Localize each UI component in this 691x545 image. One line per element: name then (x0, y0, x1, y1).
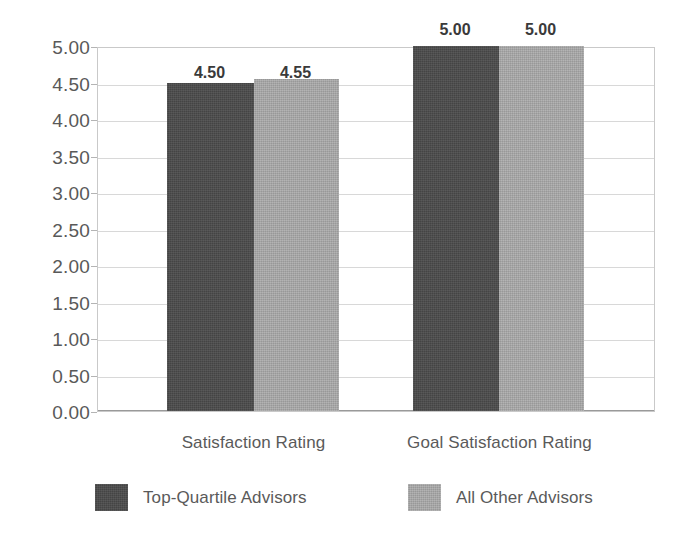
value-label-satisfaction-all-other: 4.55 (253, 65, 338, 81)
y-tick-mark (91, 412, 97, 413)
y-tick-label-4-00: 4.00 (6, 111, 90, 130)
value-label-goal-satisfaction-top-quartile: 5.00 (412, 22, 498, 38)
bar-satisfaction-top-quartile[interactable] (167, 83, 254, 412)
y-tick-label-4-50: 4.50 (6, 74, 90, 93)
y-axis: 5.00 4.50 4.00 3.50 3.00 2.50 2.00 1.50 … (0, 0, 90, 545)
bar-satisfaction-all-other[interactable] (254, 79, 339, 411)
y-tick-label-5-00: 5.00 (6, 38, 90, 57)
y-tick-label-1-00: 1.00 (6, 330, 90, 349)
legend-swatch-icon (95, 484, 128, 511)
category-label-satisfaction-rating: Satisfaction Rating (116, 434, 391, 451)
value-label-satisfaction-top-quartile: 4.50 (166, 65, 253, 81)
value-label-goal-satisfaction-all-other: 5.00 (498, 22, 583, 38)
y-tick-label-2-50: 2.50 (6, 220, 90, 239)
category-label-goal-satisfaction-rating: Goal Satisfaction Rating (362, 434, 637, 451)
legend-label: All Other Advisors (456, 489, 593, 506)
y-tick-label-0-50: 0.50 (6, 366, 90, 385)
y-tick-label-2-00: 2.00 (6, 257, 90, 276)
legend-swatch-icon (408, 484, 441, 511)
y-tick-label-3-00: 3.00 (6, 184, 90, 203)
legend-item-all-other-advisors[interactable]: All Other Advisors (408, 484, 593, 511)
y-tick-label-1-50: 1.50 (6, 293, 90, 312)
legend-item-top-quartile-advisors[interactable]: Top-Quartile Advisors (95, 484, 307, 511)
y-tick-label-0-00: 0.00 (6, 403, 90, 422)
bar-goal-satisfaction-all-other[interactable] (499, 46, 584, 411)
plot-area (97, 47, 655, 412)
legend-label: Top-Quartile Advisors (143, 489, 307, 506)
bar-chart: 5.00 4.50 4.00 3.50 3.00 2.50 2.00 1.50 … (0, 0, 691, 545)
legend: Top-Quartile Advisors All Other Advisors (0, 484, 691, 524)
y-tick-label-3-50: 3.50 (6, 147, 90, 166)
bar-goal-satisfaction-top-quartile[interactable] (413, 46, 499, 411)
